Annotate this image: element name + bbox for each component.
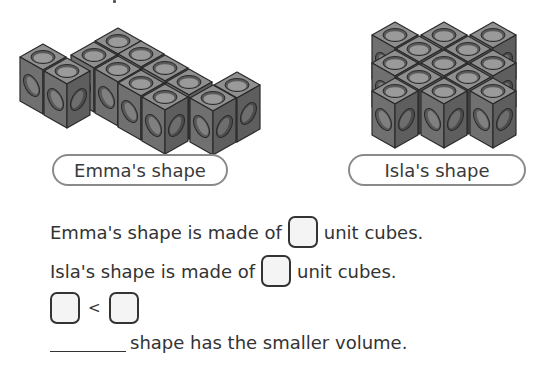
less-than-symbol: < [88,299,101,317]
emma-count-answer-box[interactable] [288,216,318,248]
question-emma-prefix: Emma's shape is made of [50,222,282,243]
question-isla-suffix: unit cubes. [297,261,397,282]
question-emma-count: Emma's shape is made of unit cubes. [50,216,423,248]
isla-shape-label-text: Isla's shape [384,160,489,181]
isla-count-answer-box[interactable] [261,255,291,287]
question-isla-count: Isla's shape is made of unit cubes. [50,255,397,287]
question-isla-prefix: Isla's shape is made of [50,261,255,282]
question-smaller-volume: shape has the smaller volume. [50,332,407,353]
emma-shape-label: Emma's shape [52,154,228,186]
isla-shape-label: Isla's shape [348,154,526,186]
comparison-left-box[interactable] [50,292,80,324]
emma-shape-label-text: Emma's shape [74,160,206,181]
question-smaller-volume-text: shape has the smaller volume. [130,332,407,353]
comparison-row: < [50,292,145,324]
name-answer-blank[interactable] [50,333,126,352]
isla-shape-cubes [372,22,516,148]
emma-shape-cubes [20,28,260,155]
comparison-right-box[interactable] [109,292,139,324]
question-emma-suffix: unit cubes. [324,222,424,243]
